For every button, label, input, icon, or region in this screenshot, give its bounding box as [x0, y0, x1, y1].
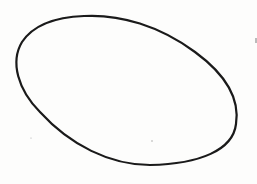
- paper-speck: [151, 140, 152, 141]
- paper-speck: [30, 137, 31, 138]
- ellipse-figure: [0, 0, 257, 184]
- drawing-canvas: [0, 0, 257, 184]
- edge-smudge: [255, 38, 257, 43]
